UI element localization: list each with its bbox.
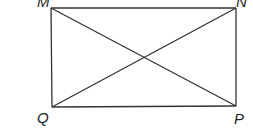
vertex-label-n: N — [236, 0, 247, 9]
side-qm — [51, 8, 52, 107]
side-pq — [52, 106, 236, 107]
vertex-label-q: Q — [37, 110, 49, 125]
vertex-label-p: P — [234, 111, 244, 126]
vertex-label-m: M — [37, 0, 50, 9]
